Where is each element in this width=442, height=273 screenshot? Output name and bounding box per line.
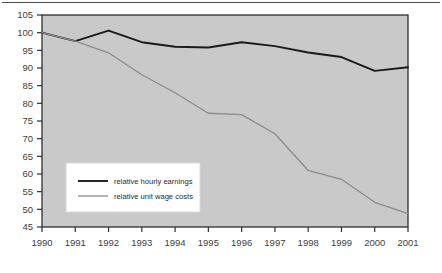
y-tick-label: 50 <box>22 204 33 215</box>
x-tick-label: 1990 <box>31 237 52 248</box>
legend-entry-label: relative unit wage costs <box>114 192 193 201</box>
legend-box <box>66 163 200 212</box>
y-tick-label: 65 <box>22 151 33 162</box>
y-tick-label: 105 <box>17 9 33 20</box>
x-tick-label: 1998 <box>298 237 319 248</box>
chart-legend: relative hourly earningsrelative unit wa… <box>66 163 200 212</box>
x-axis-ticks: 1990199119921993199419951996199719981999… <box>31 227 418 248</box>
x-tick-label: 1992 <box>98 237 119 248</box>
x-tick-label: 1997 <box>264 237 285 248</box>
y-tick-label: 75 <box>22 115 33 126</box>
y-tick-label: 70 <box>22 133 33 144</box>
line-chart: 4550556065707580859095100105 19901991199… <box>0 0 442 273</box>
y-axis-ticks: 4550556065707580859095100105 <box>17 9 42 232</box>
y-tick-label: 45 <box>22 221 33 232</box>
y-tick-label: 95 <box>22 45 33 56</box>
x-tick-label: 1991 <box>65 237 86 248</box>
y-tick-label: 100 <box>17 27 33 38</box>
y-tick-label: 90 <box>22 62 33 73</box>
y-tick-label: 55 <box>22 186 33 197</box>
y-tick-label: 85 <box>22 80 33 91</box>
x-tick-label: 2000 <box>364 237 385 248</box>
x-tick-label: 2001 <box>397 237 418 248</box>
y-tick-label: 80 <box>22 98 33 109</box>
chart-figure: 4550556065707580859095100105 19901991199… <box>0 0 442 273</box>
x-tick-label: 1994 <box>165 237 186 248</box>
x-tick-label: 1993 <box>131 237 152 248</box>
y-tick-label: 60 <box>22 168 33 179</box>
legend-entry-label: relative hourly earnings <box>114 177 193 186</box>
x-tick-label: 1999 <box>331 237 352 248</box>
x-tick-label: 1995 <box>198 237 219 248</box>
x-tick-label: 1996 <box>231 237 252 248</box>
